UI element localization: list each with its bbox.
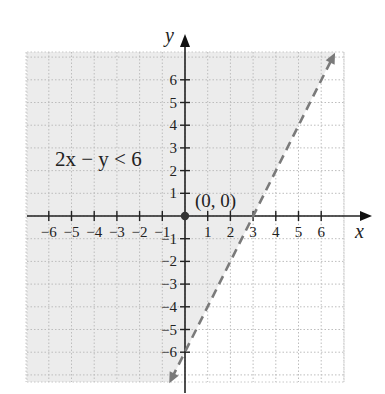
origin-dot (181, 212, 189, 220)
x-tick-label: 5 (295, 224, 303, 240)
y-tick-label: −4 (161, 299, 177, 315)
x-tick-label: 2 (227, 224, 235, 240)
x-tick-label: 6 (317, 224, 325, 240)
y-tick-label: 5 (170, 95, 178, 111)
inequality-label: 2x − y < 6 (55, 147, 142, 171)
x-tick-label: −4 (86, 224, 102, 240)
x-tick-label: 3 (249, 224, 257, 240)
y-tick-label: −1 (161, 231, 177, 247)
x-tick-label: 1 (204, 224, 212, 240)
y-tick-label: −3 (161, 276, 177, 292)
y-axis-label: y (163, 24, 174, 47)
y-tick-label: 4 (170, 117, 178, 133)
test-point-marker (181, 212, 189, 220)
test-point-label: (0, 0) (195, 190, 236, 212)
x-tick-label: −6 (41, 224, 57, 240)
x-tick-label: 4 (272, 224, 280, 240)
inequality-graph: −6−5−4−3−2−1123456−6−5−4−3−2−1123456 2x … (0, 0, 385, 394)
x-tick-label: −3 (109, 224, 125, 240)
y-tick-label: −2 (161, 253, 177, 269)
x-tick-label: −5 (64, 224, 80, 240)
y-tick-label: 3 (170, 140, 178, 156)
y-tick-label: −5 (161, 322, 177, 338)
x-axis-label: x (354, 220, 364, 242)
y-tick-label: −6 (161, 344, 177, 360)
y-axis-arrow-icon (180, 34, 190, 47)
x-tick-label: −2 (132, 224, 148, 240)
y-tick-label: 1 (170, 185, 178, 201)
y-tick-label: 2 (170, 163, 178, 179)
y-tick-label: 6 (170, 72, 178, 88)
